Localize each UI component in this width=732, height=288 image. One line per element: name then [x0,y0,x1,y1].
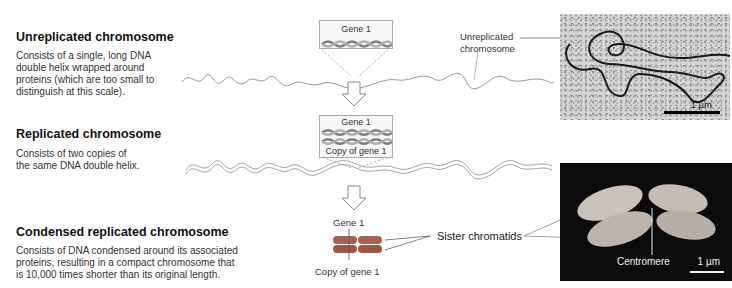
copy-label: Copy of gene 1 [320,146,392,157]
dna-helix-icon [320,39,392,49]
scale-label: 1 µm [698,256,720,267]
gene-zoom-box-replicated: Gene 1 Copy of gene 1 [319,115,393,158]
scale-bar [664,111,720,114]
condensed-chromosome [333,229,382,260]
scale-label: 1 µm [691,99,712,110]
scale-bar [690,271,724,273]
unreplicated-dna-strand [182,73,554,88]
down-arrow-icon [342,186,366,210]
micrograph-condensed: Centromere 1 µm [560,163,732,281]
replicated-dna-strand [186,160,552,178]
callout-line: Unreplicated [460,31,515,43]
centromere-label: Centromere [617,256,670,267]
gene-label: Gene 1 [320,24,392,35]
condensed-copy-label: Copy of gene 1 [315,266,379,277]
gene-zoom-box-unreplicated: Gene 1 [319,20,393,49]
unreplicated-callout: Unreplicated chromosome [460,31,515,55]
condensed-gene-label: Gene 1 [333,217,364,228]
micrograph-unreplicated: 1 µm [560,14,730,120]
sister-chromatids-label: Sister chromatids [437,230,522,242]
dna-helix-icon [320,137,392,146]
leader-line [474,52,478,80]
dna-helix-icon [320,128,392,137]
callout-line: chromosome [460,43,515,55]
down-arrow-icon [342,82,366,106]
gene-label: Gene 1 [320,117,392,128]
